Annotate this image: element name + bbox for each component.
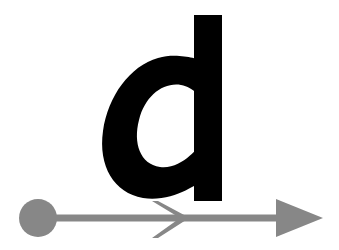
arrow-tail-circle [19, 199, 57, 237]
arrow-shaft [38, 215, 300, 222]
letter-d-stem [194, 15, 222, 201]
figure-svg [0, 0, 339, 250]
image-canvas: Bold italic letter d above a gray arrow … [0, 0, 339, 250]
